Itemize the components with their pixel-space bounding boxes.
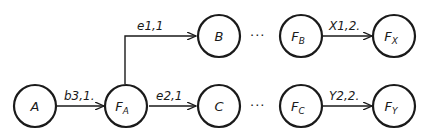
node-fa: FA <box>105 85 147 127</box>
svg-text:C: C <box>214 99 224 114</box>
node-fy: FY <box>373 85 415 127</box>
svg-text:A: A <box>30 99 40 114</box>
ellipsis-bottom: ··· <box>250 98 265 113</box>
edge-label-e11: e1,1 <box>137 19 163 33</box>
svg-text:B: B <box>215 29 224 44</box>
edge-label-x12: X1,2. <box>328 19 360 33</box>
edge-fa-b: e1,1 <box>125 19 196 84</box>
edge-a-fa: b3,1. <box>57 89 104 106</box>
edge-label-e21: e2,1 <box>156 89 182 103</box>
edge-label-b31: b3,1. <box>64 89 95 103</box>
node-fb: FB <box>280 15 322 57</box>
edge-label-y22: Y2,2. <box>329 89 359 103</box>
node-c: C <box>198 85 240 127</box>
flow-diagram: b3,1. e1,1 e2,1 X1,2. Y2,2. ··· ··· A FA… <box>0 0 428 135</box>
ellipsis-top: ··· <box>250 28 265 43</box>
node-b: B <box>198 15 240 57</box>
edge-fc-fy: Y2,2. <box>322 89 372 106</box>
edge-fa-c: e2,1 <box>149 89 196 106</box>
node-fx: FX <box>373 15 415 57</box>
node-fc: FC <box>280 85 322 127</box>
edge-fb-fx: X1,2. <box>322 19 372 36</box>
node-a: A <box>14 85 56 127</box>
